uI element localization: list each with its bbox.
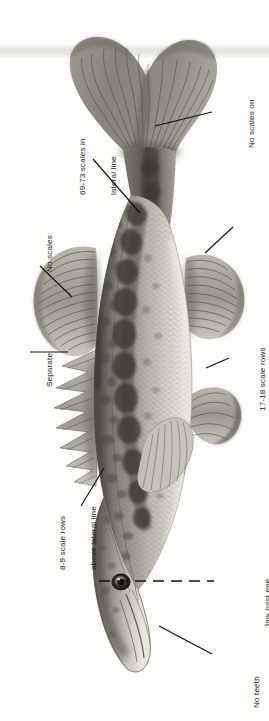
label-line: 69-73 scales in [78, 138, 88, 195]
label-line: No scales [45, 235, 55, 272]
label-line: 17-18 scale rows [258, 347, 268, 411]
label-no-scales-dorsal-fin: No scales [24, 235, 76, 272]
label-line: No scales on [247, 81, 257, 148]
label-jaw-past-eye: Jaw past eye [242, 579, 269, 628]
label-line: lateral line [109, 138, 119, 195]
label-separate: Separate [24, 353, 76, 387]
label-scale-rows-below-lateral-line: 17-18 scale rows below lateral line [237, 347, 269, 411]
label-no-scales-on-caudal-membrane: No scales on caudal membrane [226, 81, 269, 148]
label-line: Separate [45, 353, 55, 387]
label-line: above lateral line [89, 506, 99, 570]
label-no-scales-anal-fin: No scales [247, 198, 269, 235]
fish-eye [112, 574, 131, 591]
label-no-teeth-on-tongue: No teeth on tongue [231, 671, 269, 708]
label-line: No teeth [252, 671, 262, 708]
leader-rows-below [206, 358, 229, 368]
pelvic-fin [186, 387, 241, 444]
anal-fin [182, 255, 244, 340]
label-line: 8-9 scale rows [58, 506, 68, 570]
leader-no-scales-anal [205, 227, 233, 253]
label-lateral-line-scales: 69-73 scales in lateral line [57, 138, 140, 195]
leader-no-teeth [159, 626, 212, 654]
figure-page: No scales on caudal membrane 69-73 scale… [0, 0, 269, 721]
label-line: Jaw past eye [263, 579, 269, 628]
label-line: No scales [268, 198, 269, 235]
label-scale-rows-above-lateral-line: 8-9 scale rows above lateral line [37, 506, 120, 570]
